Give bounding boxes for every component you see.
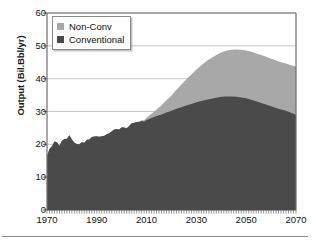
x-axis-tick-labels: 197019902010203020502070 — [0, 214, 312, 230]
y-axis-tick-labels: 0102030405060 — [22, 0, 46, 198]
y-tick-label: 30 — [24, 107, 46, 117]
legend-swatch-conventional — [57, 36, 64, 43]
x-tick-label: 2030 — [176, 214, 216, 225]
y-tick-label: 10 — [24, 172, 46, 182]
x-tick-label: 1970 — [27, 214, 67, 225]
footer-divider — [2, 236, 308, 237]
legend[interactable]: Non-Conv Conventional — [52, 16, 131, 50]
x-tick-label: 2050 — [226, 214, 266, 225]
legend-item-non-conv[interactable]: Non-Conv — [57, 20, 124, 33]
legend-label-non-conv: Non-Conv — [69, 22, 112, 32]
y-tick-label: 40 — [24, 74, 46, 84]
stacked-area-plot — [0, 0, 312, 244]
legend-label-conventional: Conventional — [69, 35, 124, 45]
y-tick-label: 20 — [24, 139, 46, 149]
x-tick-label: 1990 — [77, 214, 117, 225]
legend-item-conventional[interactable]: Conventional — [57, 33, 124, 46]
y-tick-label: 60 — [24, 8, 46, 18]
legend-swatch-non-conv — [57, 23, 64, 30]
x-tick-label: 2010 — [127, 214, 167, 225]
chart-container: Output (Bil.Bbl/yr) 0102030405060 Non-Co… — [0, 0, 312, 244]
x-tick-label: 2070 — [276, 214, 312, 225]
y-tick-label: 50 — [24, 41, 46, 51]
